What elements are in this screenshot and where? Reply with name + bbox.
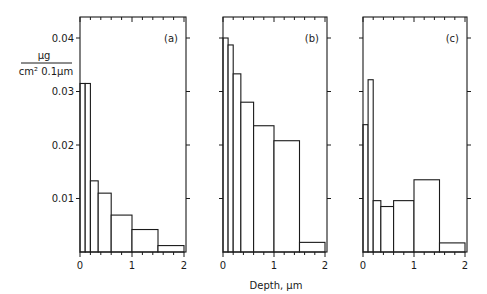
x-tick-label: 2 — [322, 260, 328, 271]
panel-c: 012(c) — [359, 17, 471, 271]
panel-label: (c) — [446, 33, 459, 44]
histogram-bar — [300, 242, 326, 252]
histogram-bar — [233, 74, 241, 252]
x-tick-label: 2 — [462, 260, 468, 271]
x-tick-label: 0 — [360, 260, 366, 271]
histogram-bar — [368, 80, 373, 252]
histogram-bar — [98, 193, 111, 252]
histogram-bar — [373, 201, 381, 252]
panel-label: (a) — [164, 33, 178, 44]
histogram-bar — [85, 83, 90, 252]
histogram-bar — [440, 243, 466, 252]
x-tick-label: 0 — [220, 260, 226, 271]
histogram-bar — [111, 215, 132, 252]
histogram-bar — [158, 246, 184, 252]
x-axis-label: Depth, µm — [250, 280, 303, 291]
y-tick-label: 0.04 — [52, 33, 74, 44]
histogram-bar — [80, 83, 85, 252]
histogram-bar — [254, 126, 274, 252]
x-tick-label: 1 — [129, 260, 135, 271]
histogram-bar — [90, 181, 98, 252]
y-axis-label-numerator: µg — [38, 50, 51, 61]
panel-label: (b) — [305, 33, 319, 44]
y-tick-label: 0.03 — [52, 86, 74, 97]
histogram-bar — [363, 125, 368, 252]
histogram-bar — [381, 207, 394, 252]
x-tick-label: 2 — [181, 260, 187, 271]
y-tick-label: 0.02 — [52, 140, 74, 151]
depth-histogram-figure: 012(a)012(b)012(c)0.010.020.030.04µgcm² … — [0, 0, 487, 294]
histogram-bar — [394, 201, 414, 252]
histogram-bar — [241, 102, 254, 252]
panel-a: 012(a) — [76, 17, 190, 271]
histogram-bar — [223, 38, 228, 252]
x-tick-label: 1 — [271, 260, 277, 271]
histogram-bar — [132, 230, 158, 252]
y-axis-label-denominator: cm² 0.1µm — [19, 66, 73, 77]
y-tick-label: 0.01 — [52, 193, 74, 204]
panel-b: 012(b) — [219, 17, 331, 271]
x-tick-label: 0 — [77, 260, 83, 271]
histogram-bar — [274, 141, 300, 252]
histogram-bar — [228, 45, 233, 252]
histogram-bar — [414, 180, 440, 252]
x-tick-label: 1 — [411, 260, 417, 271]
